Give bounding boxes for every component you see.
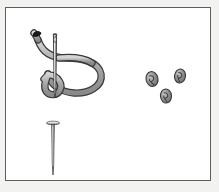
threaded-needle-region (28, 28, 110, 102)
knot-1-region (144, 70, 161, 88)
knot-2-region (173, 68, 189, 85)
illustration-canvas: Sewing needle with threaded loop, straig… (0, 0, 219, 192)
straight-pin-region (44, 118, 64, 178)
knot-3-region (159, 88, 175, 105)
